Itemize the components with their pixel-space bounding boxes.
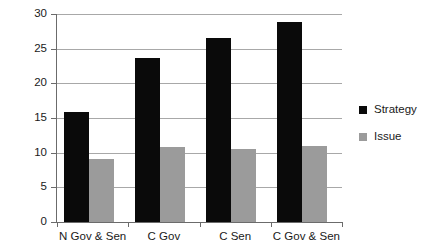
gridline [57, 14, 342, 15]
x-axis-label: N Gov & Sen [57, 230, 128, 243]
y-axis-tick [51, 83, 56, 84]
y-axis-tick [51, 153, 56, 154]
bar-strategy-2 [206, 38, 231, 222]
x-axis-label: C Gov & Sen [271, 230, 342, 243]
bar-strategy-3 [277, 22, 302, 222]
bar-strategy-1 [135, 58, 160, 222]
x-axis-tick [200, 222, 201, 227]
bar-issue-2 [231, 149, 256, 222]
chart-legend: StrategyIssue [359, 104, 417, 158]
bar-strategy-0 [64, 112, 89, 222]
y-axis-tick [51, 14, 56, 15]
y-axis-tick [51, 49, 56, 50]
legend-item-issue: Issue [359, 131, 417, 143]
y-axis-label: 15 [8, 112, 47, 124]
y-axis-label: 30 [8, 8, 47, 20]
bar-issue-3 [302, 146, 327, 222]
legend-item-strategy: Strategy [359, 104, 417, 116]
x-axis-tick [128, 222, 129, 227]
x-axis-label: C Gov [128, 230, 199, 243]
x-axis-tick [342, 222, 343, 227]
y-axis-tick [51, 118, 56, 119]
x-axis-tick [57, 222, 58, 227]
plot-area [57, 14, 342, 222]
y-axis-tick [51, 187, 56, 188]
legend-swatch-icon [359, 106, 367, 114]
y-axis-label: 5 [8, 181, 47, 193]
y-axis-label: 20 [8, 77, 47, 89]
bar-issue-0 [89, 159, 114, 222]
legend-label: Strategy [374, 104, 417, 116]
y-axis-label: 25 [8, 43, 47, 55]
bar-issue-1 [160, 147, 185, 222]
y-axis-label: 0 [8, 216, 47, 228]
bar-chart: 051015202530 N Gov & SenC GovC SenC Gov … [0, 0, 430, 251]
y-axis-label: 10 [8, 147, 47, 159]
x-axis-tick [271, 222, 272, 227]
x-axis-label: C Sen [200, 230, 271, 243]
legend-swatch-icon [359, 133, 367, 141]
y-axis-tick [51, 222, 56, 223]
legend-label: Issue [374, 131, 402, 143]
